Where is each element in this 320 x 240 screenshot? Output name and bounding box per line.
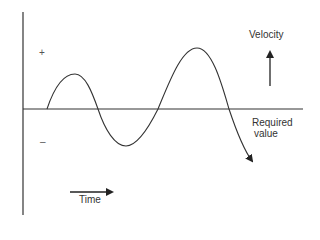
positive-sign: + [39, 47, 45, 58]
required-value-label-line1: Required [252, 117, 293, 128]
velocity-curve [47, 48, 252, 161]
time-label: Time [79, 194, 101, 205]
velocity-label: Velocity [249, 29, 283, 40]
required-value-label-line2: value [254, 128, 278, 139]
negative-sign: – [40, 136, 46, 147]
